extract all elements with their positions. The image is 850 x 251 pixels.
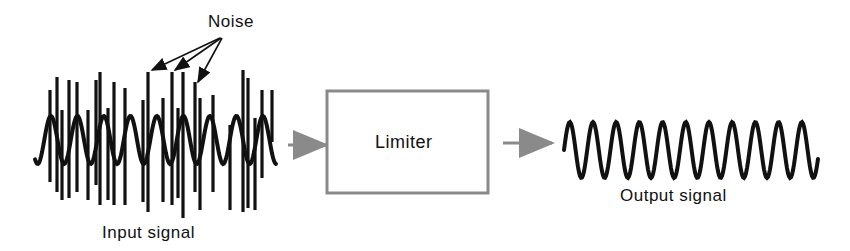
diagram-canvas [0, 0, 850, 251]
input-signal-label: Input signal [102, 223, 195, 243]
noise-label: Noise [208, 12, 254, 32]
output-signal-label: Output signal [620, 186, 727, 206]
limiter-label: Limiter [375, 132, 433, 153]
input-signal-waveform [35, 70, 276, 218]
noise-arrows [152, 38, 222, 82]
output-signal-waveform [564, 122, 818, 178]
